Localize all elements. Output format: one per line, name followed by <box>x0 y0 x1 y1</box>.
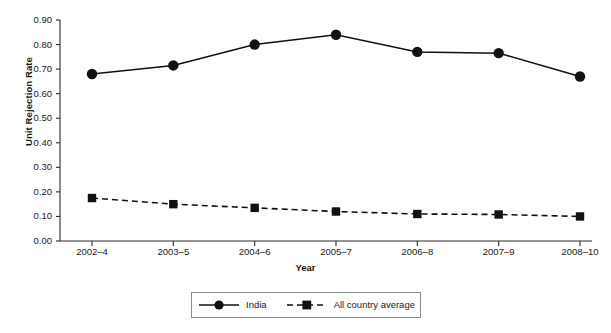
plot-area <box>0 0 611 333</box>
data-point-circle-marker <box>575 71 585 81</box>
series-all-country-average <box>88 194 584 221</box>
legend-label-all-country-average: All country average <box>334 299 415 311</box>
data-point-square-marker <box>413 210 421 218</box>
x-axis-tick-label: 2004–6 <box>210 246 300 257</box>
x-axis-tick-label: 2007–9 <box>454 246 544 257</box>
chart-legend: India All country average <box>191 292 421 318</box>
data-series-layer <box>87 30 585 221</box>
legend-solid-circle-icon <box>197 299 241 311</box>
data-point-square-marker <box>169 200 177 208</box>
y-axis-ticks <box>56 20 60 241</box>
legend-dashed-square-icon <box>285 299 329 311</box>
series-india <box>87 30 585 82</box>
data-point-square-marker <box>494 210 502 218</box>
data-point-circle-marker <box>331 30 341 40</box>
x-axis-tick-label: 2005–7 <box>291 246 381 257</box>
x-axis-tick-label: 2006–8 <box>372 246 462 257</box>
data-point-circle-marker <box>493 48 503 58</box>
data-point-circle-marker <box>412 47 422 57</box>
data-point-circle-marker <box>168 60 178 70</box>
legend-item-all-country-average: All country average <box>285 299 415 311</box>
data-point-circle-marker <box>249 39 259 49</box>
data-point-square-marker <box>250 204 258 212</box>
data-point-circle-marker <box>87 69 97 79</box>
legend-label-india: India <box>246 299 267 311</box>
series-line <box>92 35 580 77</box>
x-axis-tick-label: 2002–4 <box>47 246 137 257</box>
data-point-square-marker <box>576 212 584 220</box>
data-point-square-marker <box>332 207 340 215</box>
legend-item-india: India <box>197 299 267 311</box>
x-axis-tick-label: 2008–10 <box>535 246 611 257</box>
x-axis-tick-label: 2003–5 <box>128 246 218 257</box>
x-axis-title: Year <box>0 262 611 273</box>
axis-lines <box>60 20 592 241</box>
chart-container: Unit Rejection Rate 0.000.100.200.300.40… <box>0 0 611 333</box>
data-point-square-marker <box>88 194 96 202</box>
